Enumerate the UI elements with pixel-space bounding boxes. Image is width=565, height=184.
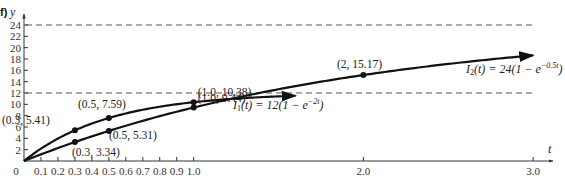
point-label: (2, 15.17) [337, 58, 382, 71]
data-point [106, 115, 112, 121]
x-tick-label: 0.7 [136, 165, 150, 177]
point-label: (0.5, 5.31) [109, 129, 157, 142]
panel-label: f) [0, 6, 8, 18]
point-label: (0.5, 7.59) [78, 98, 126, 111]
y-tick-label: 24 [10, 19, 22, 31]
x-axis-label: t [548, 142, 552, 156]
x-tick-label: 0.5 [102, 165, 116, 177]
y-tick-label: 4 [16, 132, 22, 144]
y-tick-label: 10 [10, 98, 22, 110]
point-label: (0.3, 5.41) [2, 114, 50, 127]
x-tick-label: 0.8 [153, 165, 167, 177]
x-tick-label: 0.4 [85, 165, 99, 177]
asymptote-lines [26, 25, 533, 93]
y-tick-label: 20 [10, 42, 22, 54]
x-tick-label: 2.0 [357, 165, 371, 177]
y-tick-label: 22 [10, 30, 21, 42]
x-tick-label: 0.1 [34, 165, 48, 177]
point-label: (1.0, 9.44) [198, 92, 246, 105]
x-tick-label: 0.3 [68, 165, 82, 177]
y-tick-label: 18 [10, 53, 22, 65]
y-tick-label: 16 [10, 64, 22, 76]
curve-2-label: I2(t) = 24(1 − e−0.5t) [465, 61, 562, 77]
x-tick-label: 0.2 [51, 165, 65, 177]
data-point [72, 127, 78, 133]
data-point [360, 72, 366, 78]
x-tick-label: 1.0 [187, 165, 201, 177]
x-tick-label: 0.9 [170, 165, 184, 177]
chart: f) ty00.10.20.30.40.50.60.70.80.91.02.03… [0, 0, 565, 184]
x-tick-label: 3.0 [526, 165, 540, 177]
x-tick-label: 0 [13, 165, 19, 177]
y-tick-label: 2 [16, 144, 22, 156]
data-point [191, 99, 197, 105]
x-tick-label: 0.6 [119, 165, 133, 177]
y-tick-label: 14 [10, 76, 22, 88]
point-label: (0.3, 3.34) [72, 146, 120, 159]
y-tick-label: 12 [10, 87, 21, 99]
curve-1-label: I1(t) = 12(1 − e−2t) [232, 97, 323, 113]
annotations: (0.3, 5.41)(0.5, 7.59)(1.0, 10.38)(0.3, … [2, 58, 562, 159]
y-axis-label: y [9, 5, 16, 19]
data-point [191, 105, 197, 111]
data-point [72, 139, 78, 145]
